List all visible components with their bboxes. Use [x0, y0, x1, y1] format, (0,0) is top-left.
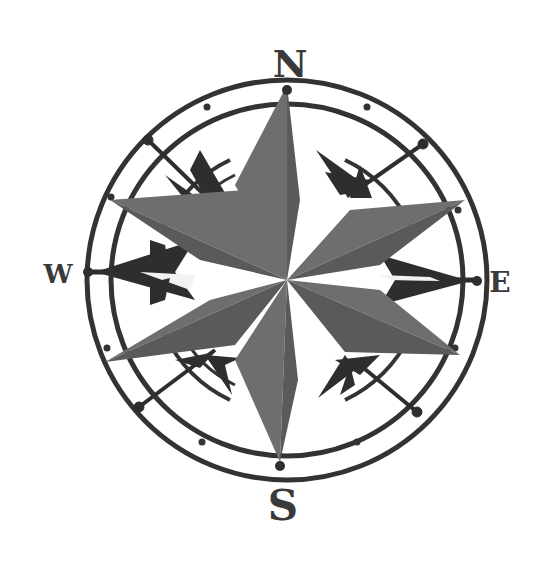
star-point-north-shade: [287, 85, 300, 280]
south-pin: [275, 461, 285, 471]
label-north: N: [273, 41, 308, 86]
label-east: E: [489, 266, 510, 299]
label-south: S: [268, 481, 298, 530]
arrow-ne: [316, 139, 428, 198]
north-pin: [282, 85, 292, 95]
arrow-west: [83, 240, 195, 305]
label-west: W: [42, 259, 73, 289]
compass-rose: N S W E: [0, 0, 537, 563]
arrow-east: [380, 255, 482, 305]
arrow-sw: [134, 350, 240, 412]
